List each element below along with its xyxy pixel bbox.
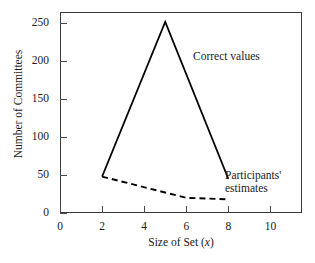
x-axis-title: Size of Set (x) <box>60 236 302 248</box>
annotation-correct-values: Correct values <box>193 50 260 63</box>
x-axis-title-tail: ) <box>210 236 214 248</box>
chart-figure: Number of Committees 050100150200250 024… <box>0 0 315 263</box>
series-line <box>102 177 228 200</box>
series-lines <box>0 0 315 263</box>
x-axis-title-plain: Size of Set ( <box>148 236 205 248</box>
annotation-estimates-line2: estimates <box>225 182 281 195</box>
annotation-participants-estimates: Participants' estimates <box>225 169 281 194</box>
series-line <box>102 22 228 179</box>
annotation-estimates-line1: Participants' <box>225 169 281 182</box>
